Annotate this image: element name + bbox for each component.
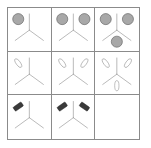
cell-canvas-r2c3 [95, 52, 139, 95]
circle-shape [56, 14, 67, 25]
ellipse-token-upper_right [124, 57, 133, 68]
cell-row3-col3-answer[interactable] [95, 95, 139, 139]
circle-shape [101, 14, 112, 25]
cell-row2-col1 [8, 52, 52, 96]
circle-token-upper_right [79, 14, 90, 25]
ellipse-token-upper_right [79, 57, 88, 68]
cell-row2-col3 [95, 52, 139, 96]
tripod-arm-down-left [59, 30, 73, 40]
rect-token-upper_right [79, 102, 90, 111]
ellipse-shape [57, 57, 66, 68]
cell-canvas-r1c3 [95, 8, 139, 51]
rect-token-upper_left [13, 102, 24, 111]
cell-row3-col1 [8, 95, 52, 139]
cell-canvas-r1c1 [8, 8, 51, 51]
cell-row1-col2 [52, 8, 96, 52]
tripod-arm-down-right [29, 30, 43, 40]
tripod-arm-down-right [29, 74, 43, 84]
ellipse-shape [79, 57, 88, 68]
tripod-arm-down-right [73, 118, 87, 128]
tripod-arm-down-left [103, 74, 117, 84]
circle-shape [13, 14, 24, 25]
cell-canvas-r2c1 [8, 52, 51, 95]
cell-canvas-r3c2 [52, 95, 95, 139]
cell-row3-col2 [52, 95, 96, 139]
cell-row2-col2 [52, 52, 96, 96]
circle-shape [123, 14, 134, 25]
cell-row1-col3 [95, 8, 139, 52]
matrix-grid [7, 7, 140, 140]
tripod-arm-down-left [15, 74, 29, 84]
circle-shape [112, 36, 123, 47]
ellipse-shape [124, 57, 133, 68]
ellipse-token-bottom [115, 80, 119, 90]
rect-shape [13, 102, 24, 111]
ellipse-shape [101, 57, 110, 68]
circle-token-upper_left [56, 14, 67, 25]
ellipse-shape [115, 80, 119, 90]
rect-shape [57, 102, 68, 111]
cell-canvas-r2c2 [52, 52, 95, 95]
cell-canvas-r1c2 [52, 8, 95, 51]
circle-token-bottom [112, 36, 123, 47]
cell-canvas-r3c3 [95, 95, 139, 139]
ellipse-token-upper_left [57, 57, 66, 68]
ellipse-token-upper_left [101, 57, 110, 68]
tripod-arm-down-right [29, 118, 43, 128]
circle-token-upper_right [123, 14, 134, 25]
tripod-arm-down-left [15, 30, 29, 40]
matrix-puzzle-root [0, 0, 151, 148]
tripod-arm-down-right [73, 74, 87, 84]
circle-token-upper_left [101, 14, 112, 25]
tripod-arm-down-left [59, 118, 73, 128]
circle-shape [79, 14, 90, 25]
tripod-arm-down-left [15, 118, 29, 128]
ellipse-shape [14, 57, 23, 68]
tripod-arm-down-left [59, 74, 73, 84]
cell-canvas-r3c1 [8, 95, 51, 139]
circle-token-upper_left [13, 14, 24, 25]
rect-token-upper_left [57, 102, 68, 111]
rect-shape [79, 102, 90, 111]
cell-row1-col1 [8, 8, 52, 52]
tripod-arm-down-right [73, 30, 87, 40]
ellipse-token-upper_left [14, 57, 23, 68]
